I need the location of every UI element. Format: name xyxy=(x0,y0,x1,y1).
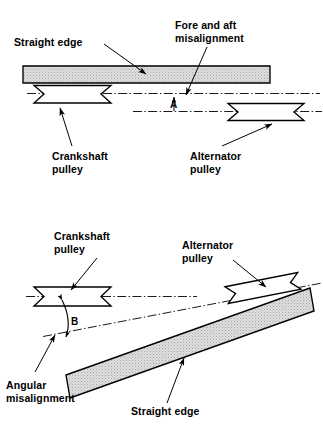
label-alternator-bottom-line2: pulley xyxy=(182,252,213,264)
label-angular-line2: misalignment xyxy=(6,392,75,404)
alternator-pulley-top xyxy=(228,104,304,121)
label-alternator-top-line2: pulley xyxy=(190,163,221,175)
crankshaft-pulley-top xyxy=(34,86,111,104)
label-dimension-b: B xyxy=(71,316,78,327)
label-alternator-top-line1: Alternator xyxy=(190,150,241,162)
pulley-alignment-svg: Straight edge Fore and aft misalignment … xyxy=(0,0,323,429)
label-fore-aft-line1: Fore and aft xyxy=(175,19,237,31)
label-straight-edge-bottom: Straight edge xyxy=(131,405,199,417)
label-straight-edge-top: Straight edge xyxy=(14,36,82,48)
label-crankshaft-bottom-line1: Crankshaft xyxy=(54,230,110,242)
technical-diagram-figure: Straight edge Fore and aft misalignment … xyxy=(0,0,323,429)
crankshaft-pulley-bottom xyxy=(34,287,111,306)
label-angular-line1: Angular xyxy=(6,379,46,391)
straight-edge-bar-top xyxy=(23,66,270,83)
label-crankshaft-top-line1: Crankshaft xyxy=(52,150,108,162)
label-fore-aft-line2: misalignment xyxy=(175,32,244,44)
label-crankshaft-bottom-line2: pulley xyxy=(54,243,85,255)
label-alternator-bottom-line1: Alternator xyxy=(182,239,233,251)
label-crankshaft-top-line2: pulley xyxy=(52,163,83,175)
